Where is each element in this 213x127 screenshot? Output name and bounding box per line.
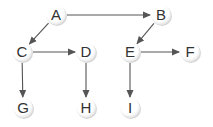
edge-a-to-c [29,23,48,44]
node-e: E [120,42,141,63]
node-d: D [76,42,97,63]
node-label: B [156,6,166,23]
node-b: B [151,5,172,26]
nodes-layer: ABCDEFGHI [12,5,201,119]
node-label: I [128,99,132,116]
node-label: D [81,43,92,60]
node-label: E [125,43,135,60]
node-label: F [185,43,194,60]
node-label: A [51,6,61,23]
node-h: H [76,98,97,119]
node-i: I [120,98,141,119]
node-g: G [13,98,34,119]
edge-b-to-e [137,23,154,43]
node-label: G [17,99,29,116]
node-f: F [180,42,201,63]
node-label: C [17,43,28,60]
edge-c-to-g [22,63,23,97]
node-c: C [12,42,33,63]
node-a: A [46,5,67,26]
tree-diagram: ABCDEFGHI [0,0,213,127]
node-label: H [81,99,92,116]
edges-layer [22,15,179,97]
